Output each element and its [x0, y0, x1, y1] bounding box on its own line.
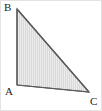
vertex-label-a: A [5, 86, 13, 97]
vertex-label-c: C [90, 96, 97, 107]
figure-canvas: B A C [0, 0, 102, 111]
triangle-diagram [1, 1, 102, 111]
vertex-label-b: B [4, 2, 11, 13]
